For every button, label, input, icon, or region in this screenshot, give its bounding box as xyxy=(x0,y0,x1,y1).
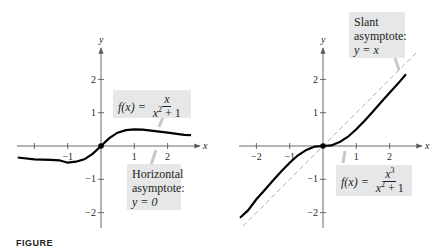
slant-asymptote-label: Slant asymptote: y = x xyxy=(349,12,405,58)
right-func-leader xyxy=(343,151,345,163)
left-func-lhs: f(x) = xyxy=(118,100,146,114)
right-y-tick-label: −1 xyxy=(307,173,318,184)
left-y-tick-label: −2 xyxy=(85,207,96,218)
left-func-fraction: x x2 + 1 xyxy=(151,93,183,120)
right-y-axis-label: y xyxy=(320,34,326,45)
left-function-label: f(x) = x x2 + 1 xyxy=(113,90,191,118)
left-asym-line1: Horizontal xyxy=(132,167,176,181)
right-asym-leader xyxy=(395,58,399,70)
slant-asymptote-line xyxy=(243,53,416,226)
right-x-tick-label: −2 xyxy=(251,151,262,162)
left-x-tick-label: 1 xyxy=(132,151,137,162)
right-func-lhs: f(x) = xyxy=(341,175,369,189)
left-asym-line3: y = 0 xyxy=(132,195,176,209)
right-asym-line1: Slant xyxy=(354,15,400,29)
horizontal-asymptote-label: Horizontal asymptote: y = 0 xyxy=(127,164,181,210)
left-y-tick-label: 2 xyxy=(91,74,96,85)
left-x-tick-label: −1 xyxy=(62,151,73,162)
left-x-tick-label: 2 xyxy=(165,151,170,162)
right-y-tick-label: 1 xyxy=(313,107,318,118)
left-x-axis-label: x xyxy=(202,140,208,151)
right-x-tick-label: 1 xyxy=(354,151,359,162)
right-function-label: f(x) = x3 x2 + 1 xyxy=(336,165,412,196)
left-origin-point xyxy=(98,143,104,149)
left-asym-line2: asymptote: xyxy=(132,181,176,195)
left-func-numerator: x xyxy=(162,93,171,107)
right-asym-line3: y = x xyxy=(354,43,400,57)
right-x-axis-label: x xyxy=(424,140,430,151)
left-func-denominator: x2 + 1 xyxy=(151,107,183,120)
right-x-tick-label: 2 xyxy=(387,151,392,162)
right-origin-point xyxy=(320,143,326,149)
right-y-tick-label: −2 xyxy=(307,207,318,218)
left-y-tick-label: −1 xyxy=(85,173,96,184)
figure-caption: FIGURE xyxy=(16,238,53,248)
left-asym-leader xyxy=(151,150,156,165)
left-y-axis-label: y xyxy=(98,34,104,45)
right-func-fraction: x3 x2 + 1 xyxy=(374,168,406,195)
right-y-tick-label: 2 xyxy=(313,74,318,85)
left-y-tick-label: 1 xyxy=(91,107,96,118)
right-func-denominator: x2 + 1 xyxy=(374,182,406,195)
right-graph: −2 −1 1 2 2 1 −1 −2 y x xyxy=(239,34,430,228)
right-func-numerator: x3 xyxy=(383,168,396,182)
right-asym-line2: asymptote: xyxy=(354,29,400,43)
